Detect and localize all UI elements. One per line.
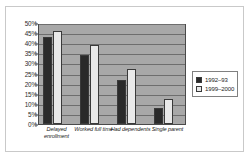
y-axis-tick-label: 0% xyxy=(7,122,37,128)
chart-figure: 0%5%10%15%20%25%30%35%40%45%50% Delayed … xyxy=(5,6,244,152)
legend-swatch xyxy=(196,86,202,92)
x-axis-tick-label: Had dependents xyxy=(111,126,151,133)
y-axis-tick-label: 25% xyxy=(7,71,37,77)
plot-area xyxy=(38,24,186,125)
bar xyxy=(117,80,126,124)
y-axis-tick-label: 45% xyxy=(7,31,37,37)
legend-item: 1992–93 xyxy=(196,75,234,84)
y-axis-tick-label: 30% xyxy=(7,61,37,67)
legend-label: 1992–93 xyxy=(205,77,228,83)
bar xyxy=(90,45,99,124)
y-axis-tick-label: 20% xyxy=(7,81,37,87)
x-axis-tick-label: Delayed enrollment xyxy=(37,126,77,140)
bar xyxy=(127,69,136,124)
bar-group xyxy=(150,25,187,124)
y-axis-tick-label: 40% xyxy=(7,41,37,47)
x-axis-tick-label: Single parent xyxy=(148,126,188,133)
bar xyxy=(43,37,52,124)
bar-group xyxy=(76,25,113,124)
legend-swatch xyxy=(196,77,202,83)
legend-label: 1999–2000 xyxy=(205,86,234,92)
legend-item: 1999–2000 xyxy=(196,84,234,93)
x-axis-tick-label: Worked full time xyxy=(74,126,114,133)
y-axis-tick-label: 10% xyxy=(7,102,37,108)
y-axis-tick-label: 50% xyxy=(7,21,37,27)
y-axis-tick-label: 15% xyxy=(7,92,37,98)
y-axis-tick-label: 35% xyxy=(7,51,37,57)
bar xyxy=(164,99,173,124)
x-axis: Delayed enrollmentWorked full timeHad de… xyxy=(38,126,186,152)
y-axis: 0%5%10%15%20%25%30%35%40%45%50% xyxy=(6,24,37,125)
y-axis-tick-label: 5% xyxy=(7,112,37,118)
bar-group xyxy=(39,25,76,124)
bar xyxy=(154,108,163,124)
bar-group xyxy=(113,25,150,124)
bar xyxy=(53,31,62,124)
chart-legend: 1992–931999–2000 xyxy=(192,71,238,97)
bar xyxy=(80,55,89,124)
